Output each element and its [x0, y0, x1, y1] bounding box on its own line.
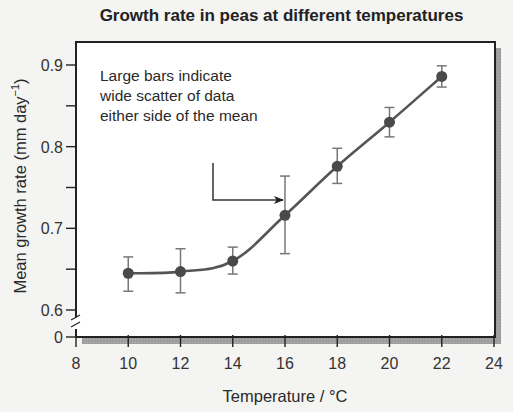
x-tick-label: 20: [381, 355, 399, 372]
data-point: [175, 266, 186, 277]
annotation-text-line: Large bars indicate: [100, 67, 232, 84]
y-tick-label: 0.7: [41, 220, 63, 237]
x-tick-label: 18: [328, 355, 346, 372]
x-tick-label: 12: [172, 355, 190, 372]
y-axis-label: Mean growth rate (mm day−1): [9, 78, 29, 293]
y-tick-label: 0.9: [41, 57, 63, 74]
data-point: [332, 161, 343, 172]
data-point: [123, 268, 134, 279]
x-tick-label: 16: [276, 355, 294, 372]
data-point: [227, 256, 238, 267]
data-point: [436, 71, 447, 82]
x-tick-label: 14: [224, 355, 242, 372]
x-tick-label: 10: [119, 355, 137, 372]
chart-plot: 0.60.70.80.90 81012141618202224 Large ba…: [0, 0, 513, 412]
y-zero-label: 0: [54, 329, 63, 346]
x-axis-label: Temperature / °C: [223, 387, 348, 405]
y-tick-label: 0.8: [41, 139, 63, 156]
annotation-text-line: wide scatter of data: [99, 87, 235, 104]
x-tick-label: 8: [72, 355, 81, 372]
data-point: [280, 210, 291, 221]
x-tick-label: 24: [485, 355, 503, 372]
annotation-text-line: either side of the mean: [100, 107, 258, 124]
y-tick-label: 0.6: [41, 302, 63, 319]
data-point: [384, 117, 395, 128]
x-tick-label: 22: [433, 355, 451, 372]
